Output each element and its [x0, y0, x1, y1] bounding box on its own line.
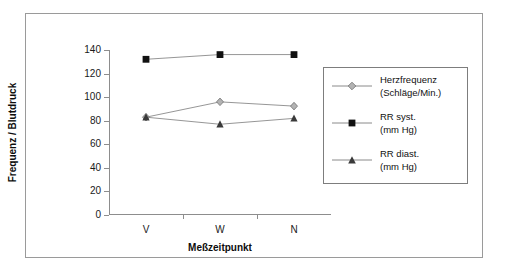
legend-item-rr-diast: RR diast. (mm Hg): [330, 150, 464, 182]
series-rr-diast: [142, 113, 297, 127]
figure-frame: 0 20 40 60 80 100 120 140: [25, 13, 483, 258]
legend-marker-triangle-icon: [330, 154, 374, 166]
y-tick-label-120: 120: [84, 69, 101, 79]
legend-label-herzfrequenz-name: Herzfrequenz: [380, 74, 437, 85]
y-tick-label-40: 40: [90, 163, 101, 173]
marker-diamond-n: [291, 102, 298, 110]
marker-triangle-n: [290, 114, 297, 121]
legend-label-rr-syst-name: RR syst.: [380, 111, 416, 122]
legend-label-rr-diast-unit: (mm Hg): [380, 161, 419, 174]
y-tick-label-100: 100: [84, 92, 101, 102]
y-tick-label-20: 20: [90, 186, 101, 196]
legend-marker-square-icon: [330, 117, 374, 129]
legend-label-rr-diast-name: RR diast.: [380, 148, 419, 159]
x-category-label-w: W: [215, 225, 224, 235]
marker-square-w: [217, 51, 224, 58]
x-category-label-n: N: [290, 225, 297, 235]
x-category-label-v: V: [143, 225, 150, 235]
series-plot: [109, 50, 331, 215]
x-tick-boundary-2: [257, 215, 258, 219]
y-tick-label-60: 60: [90, 139, 101, 149]
x-tick-boundary-1: [183, 215, 184, 219]
marker-square-v: [143, 56, 150, 63]
x-axis-title: Meßzeitpunkt: [109, 242, 331, 253]
legend-label-herzfrequenz-unit: (Schläge/Min.): [380, 87, 441, 100]
y-tick-label-140: 140: [84, 45, 101, 55]
legend-item-herzfrequenz: Herzfrequenz (Schläge/Min.): [330, 76, 464, 108]
legend-label-rr-diast: RR diast. (mm Hg): [380, 148, 419, 173]
legend-item-rr-syst: RR syst. (mm Hg): [330, 113, 464, 145]
plot-area: 0 20 40 60 80 100 120 140: [109, 50, 331, 215]
marker-square-n: [291, 51, 298, 58]
marker-diamond-w: [217, 98, 224, 106]
legend-label-rr-syst-unit: (mm Hg): [380, 124, 417, 137]
series-rr-syst: [143, 51, 298, 63]
chart-legend: Herzfrequenz (Schläge/Min.) RR syst. (mm…: [323, 67, 468, 184]
legend-label-rr-syst: RR syst. (mm Hg): [380, 111, 417, 136]
series-herzfrequenz: [143, 98, 298, 121]
y-tick-label-80: 80: [90, 116, 101, 126]
legend-marker-diamond-icon: [330, 80, 374, 92]
y-tick-label-0: 0: [95, 210, 101, 220]
legend-label-herzfrequenz: Herzfrequenz (Schläge/Min.): [380, 74, 441, 99]
y-axis-title: Frequenz / Blutdruck: [6, 50, 20, 215]
